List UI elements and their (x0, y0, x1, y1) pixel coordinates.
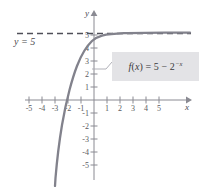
function-formula-callout: f(x) = 5 − 2−x (112, 52, 199, 81)
function-formula-text: f(x) = 5 − 2−x (129, 60, 183, 72)
y-tick-label--3: -3 (82, 135, 89, 144)
x-tick-label--4: -4 (39, 104, 46, 113)
x-tick-label--5: -5 (26, 104, 33, 113)
y-tick-label--1: -1 (82, 109, 89, 118)
asymptote-label: y = 5 (14, 36, 35, 47)
x-tick-label-5: 5 (157, 104, 161, 113)
x-tick-label-1: 1 (105, 104, 109, 113)
y-tick-label--5: -5 (82, 161, 89, 170)
y-tick-label-2: 2 (85, 70, 89, 79)
y-tick-label--2: -2 (82, 122, 89, 131)
x-tick-label-3: 3 (131, 104, 135, 113)
formula-expression: = 5 − 2 (145, 62, 174, 73)
x-tick-labels: -5 -4 -3 -2 -1 1 2 3 4 5 (26, 104, 161, 113)
y-tick-label-3: 3 (85, 57, 89, 66)
x-tick-label--3: -3 (52, 104, 59, 113)
y-tick-label--4: -4 (82, 148, 89, 157)
y-axis-label: y (84, 8, 89, 18)
x-tick-label-4: 4 (144, 104, 148, 113)
y-tick-label-5: 5 (85, 31, 89, 40)
x-tick-label-2: 2 (118, 104, 122, 113)
graph-figure: -5 -4 -3 -2 -1 1 2 3 4 5 5 4 3 2 1 -1 -2… (0, 0, 199, 187)
formula-exponent: −x (175, 60, 182, 67)
y-axis-arrow (91, 10, 98, 16)
coordinate-plane: -5 -4 -3 -2 -1 1 2 3 4 5 5 4 3 2 1 -1 -2… (0, 0, 199, 187)
callout-leader-line (92, 62, 112, 69)
x-axis-label: x (184, 102, 189, 112)
y-tick-label-1: 1 (85, 83, 89, 92)
